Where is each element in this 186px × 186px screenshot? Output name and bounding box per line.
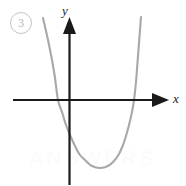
x-axis-label: x [173, 92, 179, 105]
y-axis-label: y [62, 4, 68, 17]
x-axis-arrow-icon [152, 93, 169, 107]
parabola-figure: ANSWERS y x 3 [0, 0, 186, 186]
parabola-curve [43, 17, 141, 168]
y-axis-arrow-icon [63, 17, 76, 34]
item-number-badge: 3 [10, 12, 32, 34]
